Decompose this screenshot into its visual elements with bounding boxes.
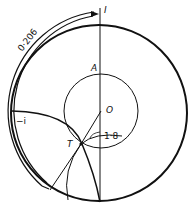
arc-t-lower — [67, 144, 81, 200]
point-t-dot — [79, 142, 82, 145]
circle-diagram: I 0·206 A O T −i 1·8 — [0, 0, 195, 208]
label-minus-i: −i — [16, 116, 26, 126]
label-top: I — [104, 5, 107, 15]
label-o: O — [106, 105, 113, 115]
arc-band-cap — [42, 186, 49, 189]
label-t: T — [67, 139, 74, 149]
label-radius: 1·8 — [104, 131, 119, 141]
radius-line — [81, 111, 101, 144]
arrowhead-icon — [91, 11, 99, 17]
label-a: A — [90, 63, 97, 73]
